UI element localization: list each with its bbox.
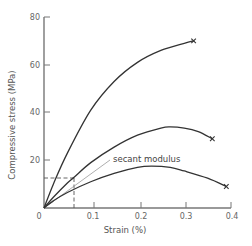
failure-x-marker-icon <box>210 136 215 141</box>
y-tick-label-60: 60 <box>30 61 40 70</box>
x-tick-label-0.1: 0.1 <box>87 212 100 221</box>
x-tick-label-0.2: 0.2 <box>135 212 148 221</box>
x-axis-title: Strain (%) <box>104 225 147 235</box>
x-tick-label-0.4: 0.4 <box>226 212 239 221</box>
x-ticks <box>94 202 231 208</box>
curve-high-strength <box>44 41 194 208</box>
y-tick-labels: 80 60 40 20 <box>30 13 40 165</box>
failure-x-marker-icon <box>224 184 229 189</box>
stress-strain-chart: 80 60 40 20 0 0.1 0.2 0.3 0.4 Strain (%)… <box>0 0 252 246</box>
y-tick-label-40: 40 <box>30 108 40 117</box>
curve-low-strength <box>44 166 226 208</box>
y-ticks <box>44 17 50 160</box>
curve-medium-strength <box>44 127 212 208</box>
end-markers <box>191 39 228 189</box>
x-tick-label-0.3: 0.3 <box>180 212 193 221</box>
origin-label: 0 <box>36 212 41 221</box>
y-tick-label-80: 80 <box>30 13 40 22</box>
curves <box>44 41 226 208</box>
secant-modulus-label: secant modulus <box>113 154 181 164</box>
y-axis-title: Compressive stress (MPa) <box>7 70 17 179</box>
x-tick-labels: 0 0.1 0.2 0.3 0.4 <box>36 212 238 221</box>
y-tick-label-20: 20 <box>30 156 40 165</box>
